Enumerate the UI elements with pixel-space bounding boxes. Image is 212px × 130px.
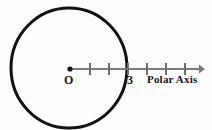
polar-axis-label: Polar Axis	[147, 74, 197, 85]
pole-point	[67, 66, 72, 71]
pole-label: O	[64, 74, 73, 86]
polar-diagram: O 3 Polar Axis	[0, 0, 212, 130]
arrow-right-icon	[199, 65, 205, 74]
polar-diagram-canvas	[0, 0, 212, 130]
radius-value-label: 3	[127, 74, 133, 86]
